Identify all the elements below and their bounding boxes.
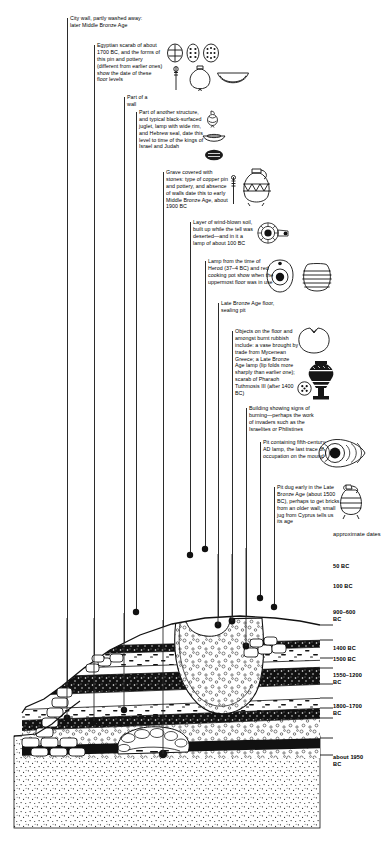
middle-bronze-jug-icon	[240, 167, 274, 207]
caption-wind-blown-soil: Layer of wind-blown soil, built up while…	[193, 219, 256, 247]
round-juglet-icon	[186, 64, 214, 92]
caption-burning-building: Building showing signs of burning—perhap…	[249, 405, 315, 433]
black-surfaced-juglet-icon	[205, 110, 221, 128]
wide-rim-lamp-icon	[202, 133, 226, 144]
caption-egyptian-scarab: Egyptian scarab of about 1700 BC, and th…	[97, 42, 163, 83]
tell-section-diagram: City wall, partly washed away: later Mid…	[0, 0, 389, 848]
red-cooking-pot-icon	[301, 262, 333, 292]
bronze-pin-icon	[171, 66, 181, 92]
caption-another-structure: Part of another structure, and typical b…	[139, 109, 205, 150]
caption-grave-covered: Grave covered with stones: type of coppe…	[166, 169, 228, 210]
fifth-century-lamp-icon	[318, 438, 366, 468]
leader-line-wind-blown	[190, 222, 191, 555]
tuthmosis-scarab-icon	[297, 381, 312, 396]
egyptian-scarabs-icon	[166, 43, 226, 63]
caption-part-of-a-wall: Part of a wall	[127, 94, 157, 108]
stratigraphy-section	[0, 508, 389, 848]
open-bowl-icon	[216, 70, 250, 90]
caption-lba-floor: Late Bronze Age floor, sealing pit	[221, 300, 287, 314]
copper-pin-icon	[229, 175, 238, 205]
leader-line-herod-lamp	[205, 261, 206, 549]
late-bronze-age-lamp-icon	[297, 326, 331, 354]
caption-city-wall: City wall, partly washed away: later Mid…	[70, 15, 146, 29]
caption-burnt-rubbish: Objects on the floor and amongst burnt r…	[235, 328, 299, 397]
hebrew-seal-icon	[204, 149, 224, 161]
hellenistic-lamp-icon	[255, 222, 291, 244]
herodian-lamp-icon	[265, 258, 295, 294]
